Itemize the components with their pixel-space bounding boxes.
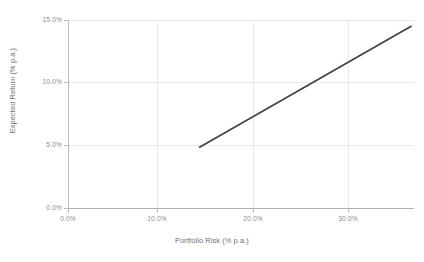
series-layer <box>0 0 424 262</box>
data-line-capital-market-line <box>200 26 412 147</box>
chart-container: 15.0% 10.0% 5.0% 0.0% 0.0% 10.0% 20.0% 3… <box>0 0 424 262</box>
